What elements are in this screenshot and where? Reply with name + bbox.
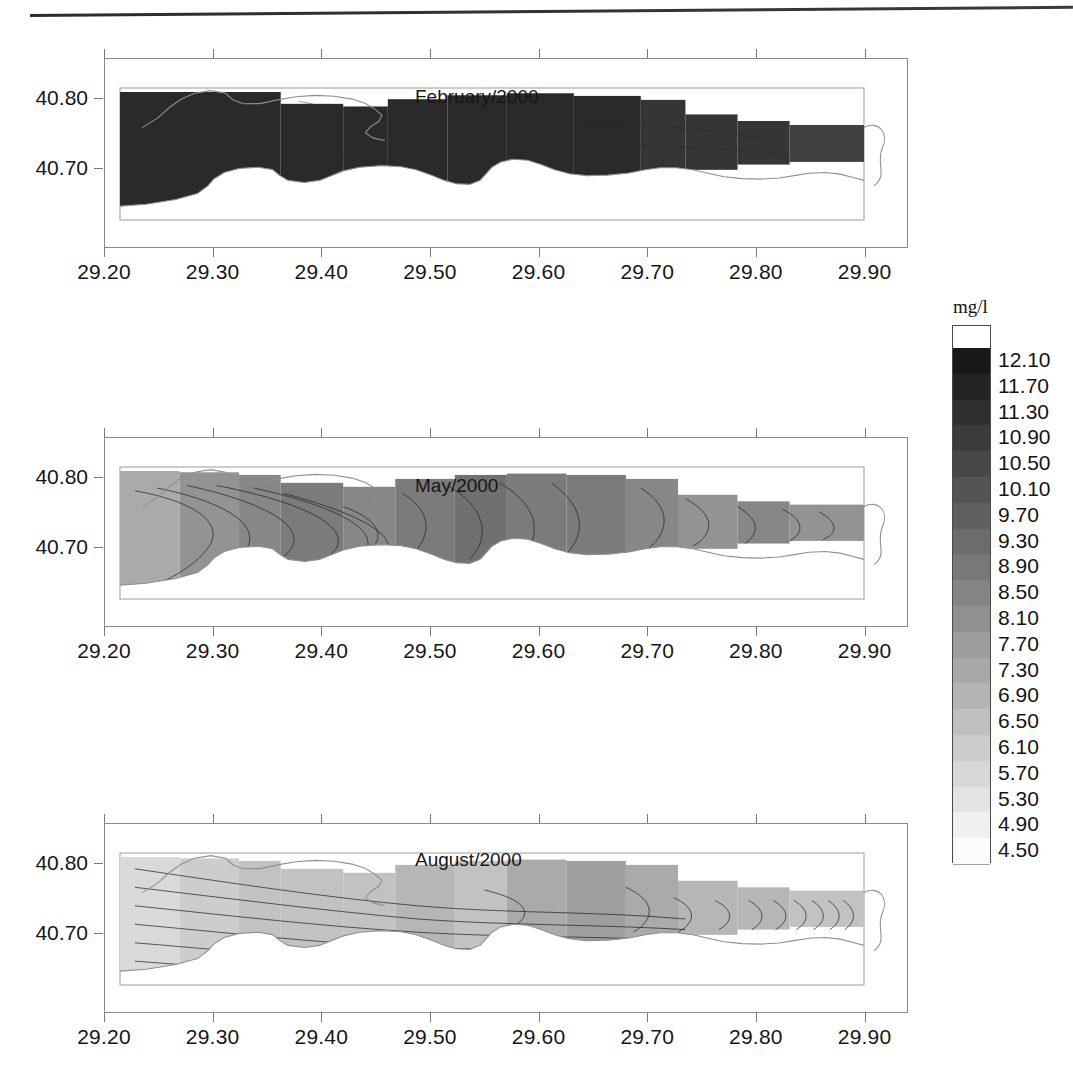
colorbar-band	[953, 554, 990, 580]
x-tick-bottom	[865, 627, 866, 636]
colorbar-band	[953, 761, 990, 787]
colorbar-band	[953, 400, 990, 426]
x-tick-bottom	[647, 627, 648, 636]
y-tick	[94, 863, 103, 864]
x-tick-top	[430, 49, 431, 58]
x-tick-top	[430, 428, 431, 437]
page-edge-rule	[30, 6, 1073, 17]
colorbar-tick-label: 7.30	[998, 658, 1039, 682]
x-axis-label: 29.60	[512, 639, 566, 663]
colorbar-tick-label: 6.50	[998, 709, 1039, 733]
x-tick-bottom	[539, 1013, 540, 1022]
x-tick-top	[865, 49, 866, 58]
x-tick-top	[430, 814, 431, 823]
colorbar-band	[953, 451, 990, 477]
x-tick-top	[756, 49, 757, 58]
x-axis-label: 29.90	[838, 1025, 892, 1049]
y-axis-label: 40.80	[0, 86, 88, 110]
x-tick-bottom	[104, 248, 105, 257]
x-tick-top	[539, 814, 540, 823]
colorbar-band	[953, 812, 990, 838]
colorbar-tick-label: 10.90	[998, 425, 1051, 449]
x-axis-label: 29.60	[512, 1025, 566, 1049]
x-axis-label: 29.40	[295, 1025, 349, 1049]
x-tick-bottom	[430, 1013, 431, 1022]
colorbar-band	[953, 658, 990, 684]
colorbar-tick-label: 5.30	[998, 787, 1039, 811]
colorbar-tick-label: 9.30	[998, 529, 1039, 553]
x-axis-label: 29.60	[512, 260, 566, 284]
colorbar-tick-label: 9.70	[998, 503, 1039, 527]
y-axis-label: 40.80	[0, 465, 88, 489]
colorbar-band	[953, 348, 990, 374]
coastline-east-outlet	[864, 504, 885, 564]
x-tick-top	[865, 428, 866, 437]
x-tick-bottom	[865, 1013, 866, 1022]
colorbar-band	[953, 838, 990, 864]
x-axis-label: 29.20	[77, 639, 131, 663]
x-tick-bottom	[539, 248, 540, 257]
x-tick-top	[213, 428, 214, 437]
x-tick-top	[321, 814, 322, 823]
colorbar-tick-label: 11.70	[998, 374, 1049, 398]
x-axis-label: 29.40	[295, 639, 349, 663]
colorbar-tick-label: 5.70	[998, 761, 1039, 785]
colorbar-band	[953, 425, 990, 451]
y-axis-label: 40.70	[0, 535, 88, 559]
y-axis-label: 40.70	[0, 156, 88, 180]
colorbar-tick-label: 12.10	[998, 348, 1051, 372]
x-axis-label: 29.20	[77, 260, 131, 284]
x-axis-label: 29.70	[620, 1025, 674, 1049]
x-tick-bottom	[213, 248, 214, 257]
x-tick-top	[756, 814, 757, 823]
x-axis-label: 29.30	[186, 260, 240, 284]
x-tick-top	[539, 428, 540, 437]
panel-title: February/2000	[415, 86, 539, 108]
x-tick-bottom	[647, 1013, 648, 1022]
y-axis-label: 40.80	[0, 851, 88, 875]
colorbar-band	[953, 477, 990, 503]
map-panel-3: 29.2029.3029.4029.5029.6029.7029.8029.90…	[0, 823, 1073, 1073]
x-tick-bottom	[756, 248, 757, 257]
colorbar-tick-label: 4.90	[998, 812, 1039, 836]
x-axis-label: 29.30	[186, 639, 240, 663]
x-tick-top	[647, 814, 648, 823]
colorbar-band	[953, 503, 990, 529]
y-axis-label: 40.70	[0, 921, 88, 945]
x-axis-label: 29.40	[295, 260, 349, 284]
map-panel-1: 29.2029.3029.4029.5029.6029.7029.8029.90…	[0, 58, 1073, 308]
colorbar-band	[953, 787, 990, 813]
y-tick	[94, 477, 103, 478]
x-tick-top	[321, 428, 322, 437]
x-tick-top	[321, 49, 322, 58]
x-tick-bottom	[756, 627, 757, 636]
x-tick-bottom	[321, 1013, 322, 1022]
x-tick-top	[213, 814, 214, 823]
x-tick-top	[104, 49, 105, 58]
x-axis-label: 29.30	[186, 1025, 240, 1049]
x-tick-bottom	[756, 1013, 757, 1022]
x-tick-bottom	[104, 1013, 105, 1022]
map-panel-2: 29.2029.3029.4029.5029.6029.7029.8029.90…	[0, 437, 1073, 687]
y-tick	[94, 547, 103, 548]
colorbar-band	[953, 683, 990, 709]
colorbar-tick-label: 7.70	[998, 632, 1039, 656]
x-tick-top	[647, 428, 648, 437]
colorbar-unit-label: mg/l	[953, 296, 988, 318]
y-tick	[94, 98, 103, 99]
shaded-classes	[120, 857, 864, 982]
x-tick-bottom	[321, 627, 322, 636]
x-tick-bottom	[865, 248, 866, 257]
x-tick-bottom	[430, 627, 431, 636]
x-axis-label: 29.80	[729, 1025, 783, 1049]
colorbar-tick-label: 4.50	[998, 838, 1039, 862]
colorbar-band	[953, 632, 990, 658]
x-tick-bottom	[213, 627, 214, 636]
colorbar-band	[953, 529, 990, 555]
x-tick-bottom	[213, 1013, 214, 1022]
x-axis-label: 29.90	[838, 639, 892, 663]
colorbar-separator	[953, 864, 990, 865]
x-axis-label: 29.80	[729, 639, 783, 663]
colorbar-tick-label: 10.10	[998, 477, 1051, 501]
panel-title: August/2000	[415, 849, 522, 871]
